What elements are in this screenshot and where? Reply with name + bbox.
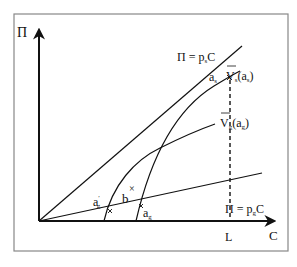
agp-cross-icon <box>108 209 112 213</box>
vs-curve-label: Vs(as) <box>226 66 253 84</box>
L-label: L <box>225 230 232 244</box>
pg-line-label: Π = pgC <box>225 202 264 217</box>
svg-text:Vg(ag): Vg(ag) <box>220 116 249 131</box>
economics-diagram: Π C L Π = psC Π = pgC Vs(as) Vg(ag) as a… <box>0 0 297 267</box>
agp-label: a′g <box>93 194 101 210</box>
y-axis-label: Π <box>17 25 27 40</box>
ag-label: ag <box>143 206 152 221</box>
b-marker: × <box>129 183 135 194</box>
vg-curve-label: Vg(ag) <box>220 113 249 131</box>
b-label: b <box>122 191 129 206</box>
svg-text:Vs(as): Vs(as) <box>226 69 253 84</box>
vg-curve <box>104 124 215 221</box>
as-label: as <box>209 70 217 85</box>
x-axis-label: C <box>269 228 278 243</box>
ps-line-label: Π = psC <box>177 50 215 65</box>
vs-curve <box>136 71 240 221</box>
